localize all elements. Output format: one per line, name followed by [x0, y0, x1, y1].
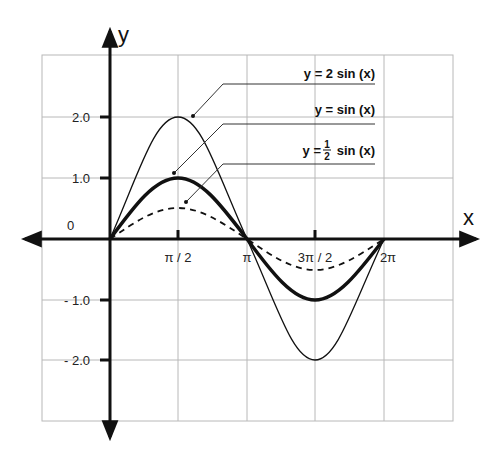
svg-text:1: 1: [324, 139, 330, 150]
y-tick-1: 1.0: [72, 171, 90, 186]
legend-half-sin: y = 1 2 sin (x): [303, 139, 375, 162]
legend-sin: y = sin (x): [315, 102, 375, 117]
legend-2sin: y = 2 sin (x): [304, 66, 375, 81]
y-tick-neg1: - 1.0: [64, 293, 90, 308]
svg-text:2: 2: [324, 151, 330, 162]
leader-dots: [172, 114, 195, 204]
y-axis-label: y: [118, 22, 129, 47]
y-tick-neg2: - 2.0: [64, 353, 90, 368]
svg-text:y =: y =: [303, 143, 322, 158]
x-tick-2pi: 2π: [380, 250, 396, 265]
x-tick-pi-half: π / 2: [164, 250, 191, 265]
x-tick-3pi-half: 3π / 2: [298, 250, 332, 265]
svg-text:sin (x): sin (x): [337, 143, 375, 158]
origin-label: 0: [67, 218, 74, 233]
sine-chart: y = 2 sin (x) y = sin (x) y = 1 2 sin (x…: [0, 0, 496, 461]
x-axis-label: x: [463, 205, 474, 230]
y-tick-2: 2.0: [72, 110, 90, 125]
x-tick-pi: π: [243, 250, 252, 265]
